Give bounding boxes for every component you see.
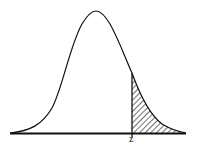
normal-curve-figure bbox=[0, 0, 197, 148]
z-label: z bbox=[129, 134, 133, 144]
bell-curve bbox=[10, 11, 186, 133]
shaded-tail-region bbox=[132, 73, 186, 133]
normal-curve-diagram: z bbox=[0, 0, 197, 148]
